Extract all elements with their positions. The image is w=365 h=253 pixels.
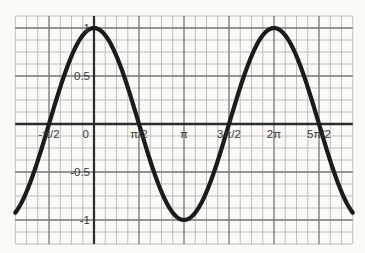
- x-tick-label: 5π/2: [307, 128, 331, 140]
- x-tick-label: 3π/2: [217, 128, 241, 140]
- y-tick-label: -1: [80, 214, 90, 226]
- y-tick-label: -0.5: [70, 166, 90, 178]
- x-tick-label: 0: [83, 128, 89, 140]
- x-tick-label: π: [180, 128, 188, 140]
- y-tick-label: 1: [84, 22, 90, 34]
- x-tick-label: π/2: [130, 128, 148, 140]
- x-tick-label: 2π: [267, 128, 281, 140]
- cosine-plot: -π/20π/2π3π/22π5π/210.5-0.5-1: [0, 0, 365, 253]
- cosine-graph-page: -π/20π/2π3π/22π5π/210.5-0.5-1: [0, 0, 365, 253]
- y-tick-label: 0.5: [74, 70, 90, 82]
- page-background: [0, 0, 365, 253]
- x-tick-label: -π/2: [38, 128, 59, 140]
